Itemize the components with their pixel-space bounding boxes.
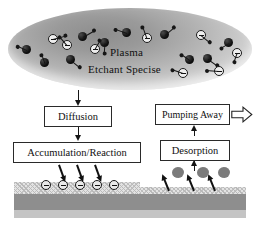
figure-canvas: Plasma Etchant Specise Diffusion Accumul… [0,0,260,236]
arrow-desorption-to-pumping-head [191,125,197,131]
plasma-label: Plasma [110,46,143,58]
desorbed-product-2 [197,167,209,178]
substrate-bulk-layer [14,194,246,210]
box-accumulation-reaction[interactable]: Accumulation/Reaction [13,142,141,163]
desorbed-product-1 [172,167,184,178]
etchant-specise-label: Etchant Specise [88,63,161,75]
substrate-base-layer [14,210,246,218]
box-diffusion[interactable]: Diffusion [44,106,112,127]
incoming-flux-arrow-3 [94,165,100,178]
adsorbed-species-5 [109,180,119,190]
pumping-away-arrow-icon [231,106,253,123]
arrow-diffusion-to-accumulation-head [75,135,81,141]
adsorbed-species-1 [41,180,51,190]
incoming-flux-arrow-1 [58,165,64,178]
desorbed-product-3 [218,167,230,178]
box-desorption[interactable]: Desorption [160,140,230,161]
box-pumping-away[interactable]: Pumping Away [155,104,230,125]
incoming-flux-arrow-2 [76,165,82,178]
